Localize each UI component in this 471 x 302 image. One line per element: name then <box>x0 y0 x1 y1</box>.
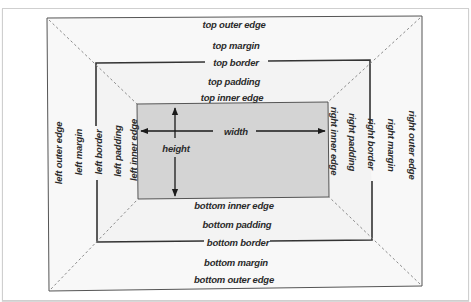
label-bottom-inner-edge: bottom inner edge <box>194 200 273 211</box>
label-right-padding: right padding <box>347 113 358 171</box>
label-top-border: top border <box>213 57 259 68</box>
label-left-padding: left padding <box>112 125 123 176</box>
label-right-border: right border <box>366 118 377 169</box>
label-bottom-padding: bottom padding <box>203 219 272 230</box>
label-top-inner-edge: top inner edge <box>201 92 264 103</box>
box-model-diagram: top outer edge top margin top border top… <box>0 0 471 302</box>
label-left-inner-edge: left inner edge <box>128 119 139 181</box>
label-left-outer-edge: left outer edge <box>53 122 64 184</box>
label-bottom-outer-edge: bottom outer edge <box>194 274 274 285</box>
label-bottom-border: bottom border <box>207 237 269 248</box>
label-left-margin: left margin <box>73 129 84 175</box>
label-right-margin: right margin <box>386 118 397 171</box>
label-bottom-margin: bottom margin <box>204 257 268 268</box>
label-top-padding: top padding <box>208 76 260 87</box>
label-width: width <box>224 126 248 137</box>
label-top-margin: top margin <box>212 40 259 51</box>
label-height: height <box>162 143 189 154</box>
label-right-inner-edge: right inner edge <box>329 107 340 176</box>
label-right-outer-edge: right outer edge <box>407 110 418 179</box>
label-top-outer-edge: top outer edge <box>202 19 265 30</box>
label-left-border: left border <box>93 130 104 175</box>
